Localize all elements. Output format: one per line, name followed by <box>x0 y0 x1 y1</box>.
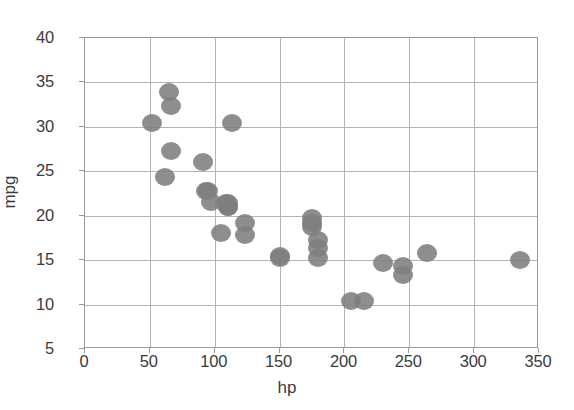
y-axis-tick <box>79 348 84 349</box>
y-axis-tick-label: 15 <box>36 250 54 269</box>
data-point <box>354 292 374 310</box>
gridline-vertical <box>150 38 151 347</box>
y-axis-tick <box>79 259 84 260</box>
data-point <box>161 142 181 160</box>
x-axis-tick-label: 350 <box>525 352 552 371</box>
data-point <box>270 249 290 267</box>
gridline-vertical <box>409 38 410 347</box>
y-axis-tick <box>79 170 84 171</box>
y-axis-title: mpg <box>0 175 20 208</box>
plot-area <box>84 37 538 348</box>
x-axis-tick-label: 200 <box>330 352 357 371</box>
scatter-plot-figure: 050100150200250300350 510152025303540 hp… <box>0 0 574 410</box>
gridline-horizontal <box>85 305 537 306</box>
x-axis-tick-label: 50 <box>140 352 158 371</box>
data-point <box>373 254 393 272</box>
data-point <box>308 249 328 267</box>
x-axis-tick-label: 300 <box>460 352 487 371</box>
data-point <box>211 224 231 242</box>
gridline-horizontal <box>85 171 537 172</box>
data-point <box>155 168 175 186</box>
x-axis-tick-label: 150 <box>265 352 292 371</box>
y-axis-tick <box>79 81 84 82</box>
y-axis-tick <box>79 126 84 127</box>
y-axis-tick <box>79 37 84 38</box>
data-point <box>222 114 242 132</box>
y-axis-tick-label: 35 <box>36 72 54 91</box>
gridline-vertical <box>280 38 281 347</box>
y-axis-tick-label: 25 <box>36 161 54 180</box>
data-point <box>193 153 213 171</box>
x-axis-title: hp <box>0 378 574 398</box>
x-axis-tick-label: 0 <box>80 352 89 371</box>
gridline-horizontal <box>85 82 537 83</box>
x-axis-tick-label: 250 <box>395 352 422 371</box>
y-axis-tick-label: 5 <box>45 339 54 358</box>
y-axis-tick <box>79 304 84 305</box>
y-axis-tick-label: 20 <box>36 205 54 224</box>
y-axis-tick-label: 10 <box>36 294 54 313</box>
data-point <box>235 226 255 244</box>
gridline-vertical <box>474 38 475 347</box>
y-axis-tick-label: 40 <box>36 28 54 47</box>
data-point <box>510 251 530 269</box>
data-point <box>142 114 162 132</box>
data-point <box>393 266 413 284</box>
y-axis-tick <box>79 215 84 216</box>
x-axis-tick-label: 100 <box>200 352 227 371</box>
y-axis-tick-label: 30 <box>36 116 54 135</box>
